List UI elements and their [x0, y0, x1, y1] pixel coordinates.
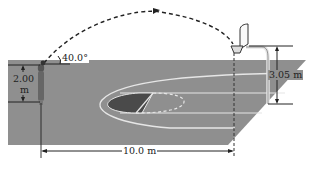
arrow-left-icon — [41, 149, 47, 153]
release-height-value: 2.00 — [12, 74, 35, 84]
arrow-down-icon — [275, 99, 279, 104]
arrow-right-icon — [228, 149, 234, 153]
hoop-rim — [231, 46, 243, 53]
backboard — [240, 24, 248, 49]
projectile-diagram: 40.0° 2.00 m 3.05 m 10.0 m — [0, 0, 313, 170]
hoop-height-label: 3.05 m — [268, 70, 303, 80]
ball-icon — [41, 61, 46, 66]
trajectory-arrow-icon — [153, 8, 160, 14]
launch-angle-label: 40.0° — [61, 53, 89, 63]
release-height-unit: m — [19, 85, 30, 95]
basketball-court — [8, 60, 306, 145]
arrow-up-icon — [275, 46, 279, 51]
horizontal-distance-label: 10.0 m — [122, 146, 157, 156]
diagram-canvas — [0, 0, 313, 170]
